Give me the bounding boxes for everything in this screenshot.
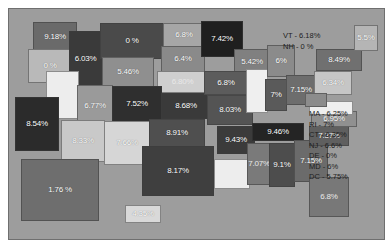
state-value-label: 8.54%: [26, 120, 48, 128]
state-sd[interactable]: 6.4%: [161, 46, 205, 72]
state-az[interactable]: 8.33%: [61, 120, 105, 162]
state-value-label: 5.42%: [241, 58, 263, 66]
state-me[interactable]: 5.5%: [354, 25, 378, 51]
state-value-label: 8.33%: [72, 137, 94, 145]
state-ks[interactable]: 8.68%: [161, 93, 211, 119]
map-canvas[interactable]: 9.18%0 %6.03%0 %6.8%6.4%5.46%6.80%6.77%7…: [8, 8, 385, 240]
state-ia[interactable]: 6.8%: [204, 71, 248, 95]
state-value-label: 8.91%: [166, 129, 188, 137]
callout-line: CT - 6.35%: [309, 130, 348, 141]
state-value-label: 9.43%: [225, 136, 247, 144]
state-value-label: 7%: [270, 91, 281, 99]
callout-line: RI - 7%: [309, 120, 348, 131]
state-hi[interactable]: 4.35%: [125, 205, 161, 223]
callout-line: MA - 6.25%: [309, 109, 348, 120]
state-value-label: 7.52%: [126, 100, 148, 108]
state-nd[interactable]: 6.8%: [163, 23, 205, 47]
state-ak[interactable]: 1.76 %: [21, 159, 99, 221]
state-tx[interactable]: 8.17%: [142, 146, 214, 196]
state-value-label: 6.8%: [217, 79, 234, 87]
callout-line: NJ - 6.6%: [309, 141, 348, 152]
state-value-label: 7.66%: [116, 139, 138, 147]
state-value-label: 6.8%: [175, 31, 192, 39]
state-value-label: 0 %: [43, 62, 56, 70]
state-value-label: 8.68%: [175, 102, 197, 110]
state-value-label: 6.77%: [84, 102, 106, 110]
small-states-callout: MA - 6.25% RI - 7% CT - 6.35% NJ - 6.6% …: [309, 109, 348, 183]
state-ne[interactable]: 6.80%: [157, 71, 208, 93]
state-al[interactable]: 9.1%: [269, 143, 295, 187]
state-ca[interactable]: 8.54%: [15, 97, 59, 151]
state-value-label: 6%: [275, 57, 286, 65]
state-tn[interactable]: 9.46%: [252, 123, 304, 141]
state-co[interactable]: 7.52%: [112, 86, 162, 122]
callout-line: MD - 6%: [309, 162, 348, 173]
callout-line: DE - 0%: [309, 151, 348, 162]
state-ms[interactable]: 7.07%: [247, 143, 271, 185]
state-ny[interactable]: 8.49%: [316, 49, 362, 71]
state-value-label: 7.42%: [211, 35, 233, 43]
state-value-label: 1.76 %: [48, 186, 72, 194]
state-value-label: 5.46%: [117, 68, 139, 76]
state-wv[interactable]: [305, 93, 327, 107]
state-fl[interactable]: 6.8%: [309, 177, 349, 217]
state-value-label: 5.5%: [357, 34, 374, 42]
state-value-label: 8.03%: [219, 106, 241, 114]
callout-line: VT - 6.18%: [283, 31, 320, 42]
state-value-label: 4.35%: [132, 210, 154, 218]
state-mt[interactable]: 0 %: [100, 23, 164, 59]
state-value-label: 6.03%: [75, 55, 97, 63]
state-value-label: 0 %: [125, 37, 138, 45]
state-value-label: 6.80%: [172, 78, 194, 86]
state-value-label: 9.1%: [273, 161, 290, 169]
state-wy[interactable]: 5.46%: [102, 57, 154, 87]
state-value-label: 6.8%: [320, 193, 337, 201]
state-value-label: 9.46%: [267, 128, 289, 136]
callout-line: DC - 5.75%: [309, 172, 348, 183]
state-ok[interactable]: 8.91%: [149, 119, 205, 147]
state-in[interactable]: 7%: [265, 79, 287, 111]
state-value-label: 8.17%: [167, 167, 189, 175]
state-la[interactable]: [214, 159, 250, 189]
sales-tax-map-figure: 9.18%0 %6.03%0 %6.8%6.4%5.46%6.80%6.77%7…: [0, 0, 391, 246]
state-value-label: 8.49%: [328, 56, 350, 64]
callout-line: NH - 0 %: [283, 42, 320, 53]
state-pa[interactable]: 6.34%: [314, 71, 352, 95]
state-value-label: 9.18%: [44, 33, 66, 41]
state-value-label: 6.4%: [174, 55, 191, 63]
state-value-label: 7.07%: [248, 160, 270, 168]
vt-nh-callout: VT - 6.18% NH - 0 %: [283, 31, 320, 52]
state-value-label: 6.34%: [322, 79, 344, 87]
